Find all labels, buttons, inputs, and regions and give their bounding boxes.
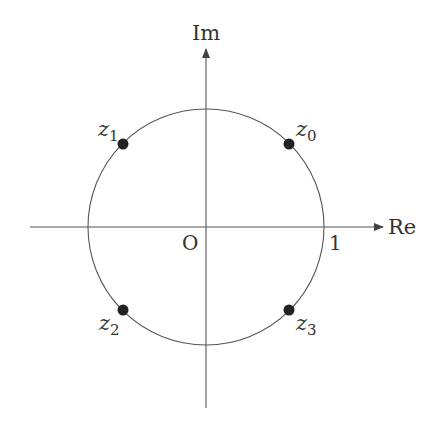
point-z1 <box>118 139 129 150</box>
point-z3 <box>284 305 295 316</box>
label-z1: z1 <box>97 117 119 145</box>
origin-label: O <box>182 231 198 255</box>
label-z3: z3 <box>295 311 317 339</box>
complex-plane-diagram: Im Re O 1 z0 z1 z2 z3 <box>0 0 436 423</box>
unit-tick-label: 1 <box>329 231 342 255</box>
imag-axis-label: Im <box>192 21 220 45</box>
point-z2 <box>118 305 129 316</box>
label-z0: z0 <box>295 117 317 145</box>
label-z2: z2 <box>98 311 120 339</box>
real-axis-label: Re <box>388 215 416 239</box>
point-z0 <box>284 139 295 150</box>
